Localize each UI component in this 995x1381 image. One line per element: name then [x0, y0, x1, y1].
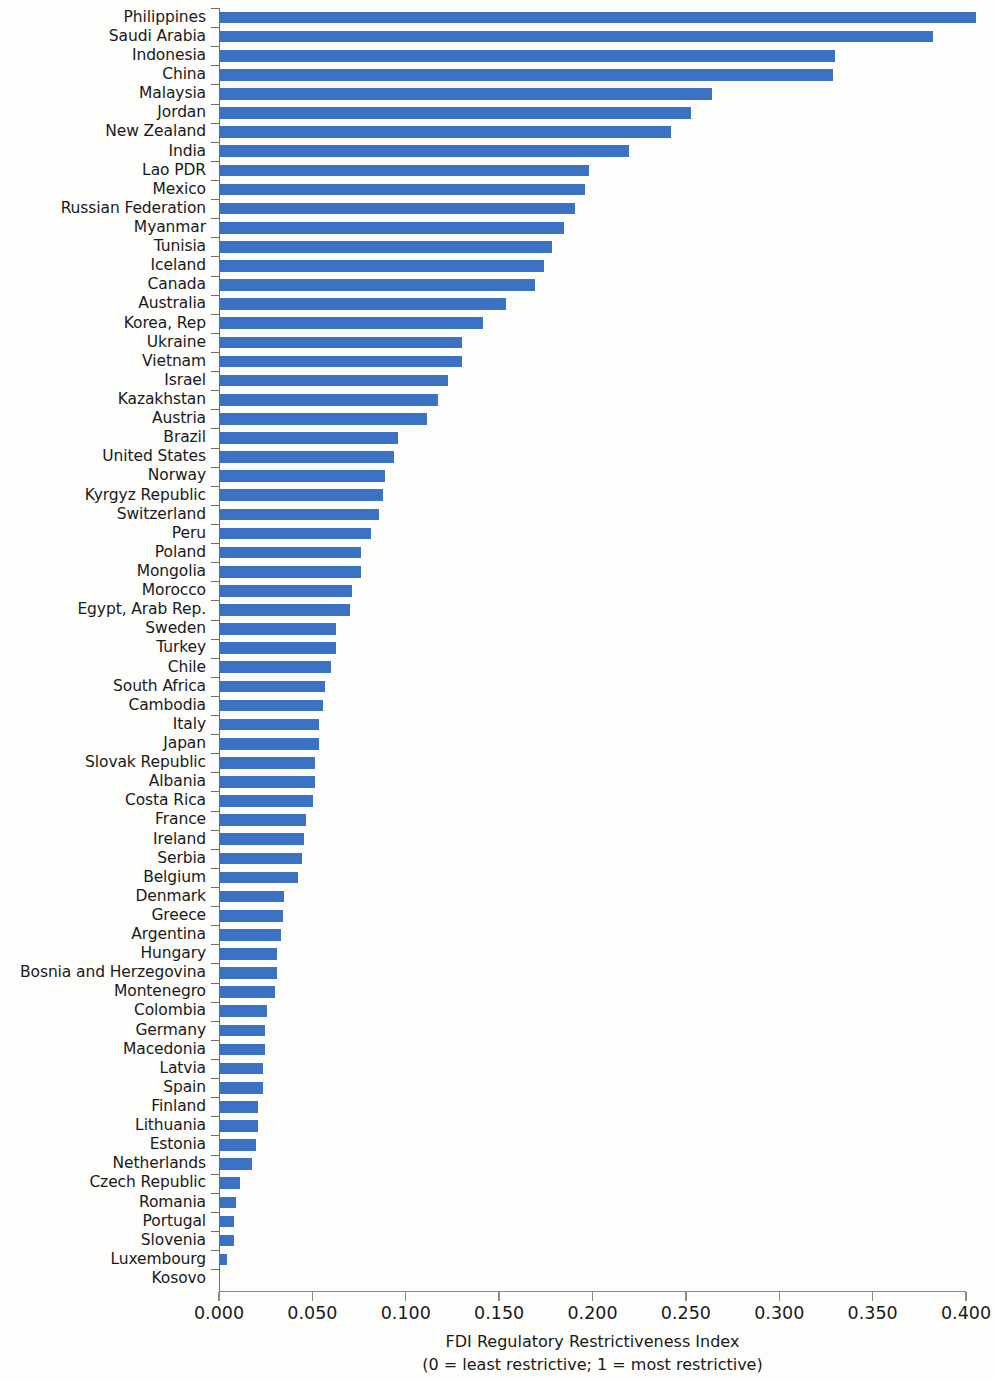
y-axis-label-row: China [0, 65, 212, 84]
bar-row [219, 1040, 989, 1059]
y-axis-label: Argentina [131, 927, 206, 943]
y-axis-label-row: Greece [0, 906, 212, 925]
y-axis-label: Norway [148, 468, 206, 484]
bar-row [219, 142, 989, 161]
y-axis-label: Turkey [156, 640, 206, 656]
bar-row [219, 906, 989, 925]
bar-row [219, 1193, 989, 1212]
y-axis-label: Ukraine [147, 335, 206, 351]
y-axis-label: Kazakhstan [118, 392, 206, 408]
bar-row [219, 27, 989, 46]
bar [219, 107, 691, 119]
bar-row [219, 639, 989, 658]
bar-row [219, 772, 989, 791]
bar [219, 776, 315, 788]
bar-row [219, 925, 989, 944]
y-axis-label-row: Myanmar [0, 218, 212, 237]
bar [219, 413, 427, 425]
bar [219, 375, 448, 387]
y-axis-label: Peru [172, 526, 206, 542]
bar [219, 222, 564, 234]
bar [219, 853, 302, 865]
y-axis-label-row: Malaysia [0, 84, 212, 103]
bar [219, 661, 331, 673]
bar-row [219, 753, 989, 772]
y-axis-label-row: Philippines [0, 8, 212, 27]
bar [219, 891, 284, 903]
bar [219, 795, 313, 807]
bar-row [219, 830, 989, 849]
y-axis-label: Austria [152, 411, 206, 427]
y-axis-label: Costa Rica [125, 793, 206, 809]
bar [219, 814, 306, 826]
y-axis-label-row: United States [0, 448, 212, 467]
bar [219, 738, 319, 750]
bar-row [219, 371, 989, 390]
x-tick-label: 0.200 [567, 1303, 617, 1323]
bar-row [219, 448, 989, 467]
y-axis-label: Serbia [157, 851, 206, 867]
bar-row [219, 1155, 989, 1174]
y-axis-label: Luxembourg [110, 1252, 206, 1268]
bar [219, 681, 325, 693]
bar-row [219, 218, 989, 237]
bar-row [219, 84, 989, 103]
y-axis-label-row: Argentina [0, 925, 212, 944]
y-axis-label: Lithuania [135, 1118, 206, 1134]
bar-row [219, 734, 989, 753]
y-axis-label: Philippines [124, 10, 206, 26]
bar [219, 872, 298, 884]
bar-row [219, 8, 989, 27]
y-axis-label: Mexico [152, 182, 206, 198]
y-axis-label-row: Ireland [0, 830, 212, 849]
bar [219, 145, 629, 157]
bar [219, 432, 398, 444]
bar [219, 184, 585, 196]
y-axis-label-row: South Africa [0, 677, 212, 696]
y-axis-label-row: Brazil [0, 428, 212, 447]
y-axis-label: Italy [173, 717, 206, 733]
bar [219, 12, 976, 24]
bar-row [219, 562, 989, 581]
y-axis-label: Ireland [153, 832, 206, 848]
y-axis-label-row: Estonia [0, 1135, 212, 1154]
y-axis-label: Jordan [157, 105, 206, 121]
bar-row [219, 199, 989, 218]
bar-row [219, 295, 989, 314]
x-tick-label: 0.150 [474, 1303, 524, 1323]
y-axis-label: Poland [155, 545, 206, 561]
bar [219, 585, 352, 597]
y-axis-label: Macedonia [123, 1042, 206, 1058]
y-axis-label-row: Sweden [0, 620, 212, 639]
bar [219, 1082, 263, 1094]
bar-row [219, 620, 989, 639]
y-axis-label-row: Lao PDR [0, 161, 212, 180]
y-axis-label-row: Australia [0, 295, 212, 314]
bar-row [219, 1174, 989, 1193]
y-axis-label: Latvia [159, 1061, 206, 1077]
y-axis-label-row: Czech Republic [0, 1174, 212, 1193]
bar-row [219, 333, 989, 352]
y-axis-label-row: Indonesia [0, 46, 212, 65]
bar-row [219, 409, 989, 428]
y-axis-label: Colombia [134, 1003, 206, 1019]
y-axis-label: Tunisia [154, 239, 206, 255]
bar [219, 833, 304, 845]
bar-row [219, 1269, 989, 1288]
bar [219, 88, 712, 100]
bar-row [219, 658, 989, 677]
bar-row [219, 314, 989, 333]
bar-row [219, 868, 989, 887]
bar [219, 260, 544, 272]
bar [219, 1139, 256, 1151]
x-axis-subtitle: (0 = least restrictive; 1 = most restric… [219, 1354, 966, 1376]
y-axis-label-row: Russian Federation [0, 199, 212, 218]
bar [219, 1120, 258, 1132]
y-axis-label-row: Macedonia [0, 1040, 212, 1059]
x-tick-label: 0.250 [661, 1303, 711, 1323]
y-axis-label-row: Israel [0, 371, 212, 390]
x-tick-mark [779, 1292, 780, 1301]
bar-series [219, 8, 989, 1289]
bar [219, 604, 350, 616]
bar-row [219, 963, 989, 982]
